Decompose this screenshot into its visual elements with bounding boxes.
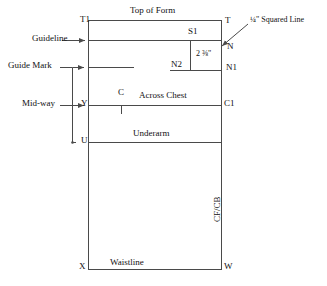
point-label-x: X [79,262,86,271]
squared-line-leader [222,24,248,46]
point-label-n: N [227,42,234,51]
point-label-w: W [224,262,233,271]
guideline-label: Guideline [32,34,68,43]
diagram-canvas: Top of Form Guideline Guide Mark Mid-way… [0,0,327,286]
waistline-label: Waistline [110,258,144,267]
point-label-c: C [118,88,124,97]
point-label-y: Y [81,99,88,108]
neck-measurement-label: 2 ⅜" [196,50,211,58]
point-label-n2: N2 [171,60,182,69]
across-chest-label: Across Chest [139,91,187,100]
top-of-form-label: Top of Form [130,6,175,15]
cf-cb-label: CF/CB [213,196,222,222]
point-label-t: T [225,16,231,25]
point-label-u: U [81,136,88,145]
point-label-c1: C1 [224,99,235,108]
point-label-s1: S1 [188,27,198,36]
guide-mark-label: Guide Mark [8,61,52,70]
mid-way-label: Mid-way [22,99,55,108]
underarm-label: Underarm [133,129,169,138]
squared-line-label: ¼" Squared Line [250,16,304,24]
point-label-n1: N1 [226,63,237,72]
point-label-t1: T1 [80,15,90,24]
